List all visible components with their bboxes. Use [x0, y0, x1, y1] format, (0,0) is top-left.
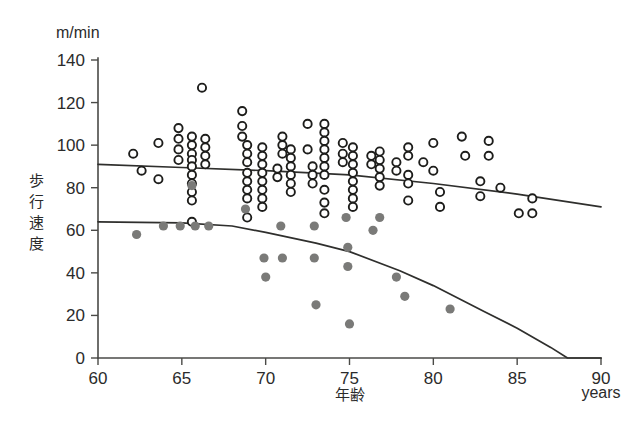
data-point-open: [461, 152, 469, 160]
series-open-circles: [129, 84, 536, 226]
data-point-filled: [446, 304, 455, 313]
data-point-open: [339, 158, 347, 166]
data-point-open: [320, 154, 328, 162]
y-axis-title-char: 歩: [29, 172, 44, 190]
data-point-open: [174, 135, 182, 143]
data-point-open: [528, 194, 536, 202]
x-axis-title: 年齢: [335, 386, 365, 404]
data-point-open: [188, 133, 196, 141]
data-point-open: [258, 186, 266, 194]
data-point-open: [201, 143, 209, 151]
data-point-filled: [159, 221, 168, 230]
data-point-open: [429, 167, 437, 175]
data-point-open: [515, 209, 523, 217]
data-point-open: [258, 169, 266, 177]
data-point-open: [320, 171, 328, 179]
data-point-open: [404, 171, 412, 179]
data-point-open: [258, 160, 266, 168]
data-point-open: [258, 194, 266, 202]
data-point-open: [320, 186, 328, 194]
data-point-open: [376, 182, 384, 190]
data-point-open: [349, 152, 357, 160]
data-point-filled: [187, 181, 196, 190]
data-point-open: [376, 165, 384, 173]
data-point-filled: [278, 253, 287, 262]
data-point-open: [476, 177, 484, 185]
data-point-filled: [241, 204, 250, 213]
data-point-open: [309, 162, 317, 170]
y-axis-title-char: 速: [29, 214, 44, 232]
data-point-open: [258, 152, 266, 160]
data-point-open: [485, 137, 493, 145]
data-point-open: [138, 167, 146, 175]
data-point-filled: [392, 273, 401, 282]
data-point-open: [436, 203, 444, 211]
data-point-open: [188, 196, 196, 204]
data-point-open: [496, 184, 504, 192]
x-tick-label: 85: [508, 369, 527, 388]
data-point-open: [258, 177, 266, 185]
x-axis-ticks: 60657075808590: [89, 358, 611, 388]
data-point-open: [174, 156, 182, 164]
data-point-open: [320, 128, 328, 136]
data-point-open: [320, 120, 328, 128]
data-point-open: [243, 141, 251, 149]
data-point-open: [392, 158, 400, 166]
data-point-open: [320, 209, 328, 217]
x-tick-label: 70: [256, 369, 275, 388]
data-point-open: [243, 186, 251, 194]
data-point-open: [278, 141, 286, 149]
data-point-open: [273, 165, 281, 173]
data-point-open: [349, 143, 357, 151]
data-point-open: [376, 147, 384, 155]
y-axis-title-char: 行: [29, 193, 44, 211]
data-point-open: [392, 167, 400, 175]
lower-trend: [98, 222, 601, 358]
data-point-open: [429, 139, 437, 147]
data-point-open: [188, 171, 196, 179]
data-point-open: [309, 171, 317, 179]
data-point-open: [278, 150, 286, 158]
data-point-open: [278, 133, 286, 141]
data-point-open: [404, 152, 412, 160]
data-point-filled: [259, 253, 268, 262]
data-point-open: [238, 107, 246, 115]
x-tick-label: 80: [424, 369, 443, 388]
data-point-filled: [176, 221, 185, 230]
data-point-filled: [400, 292, 409, 301]
y-tick-label: 20: [66, 306, 85, 325]
x-tick-label: 60: [89, 369, 108, 388]
data-point-filled: [342, 213, 351, 222]
data-point-filled: [310, 253, 319, 262]
data-point-open: [243, 213, 251, 221]
data-point-open: [154, 139, 162, 147]
y-axis-title-char: 度: [29, 235, 44, 253]
y-axis-unit-label: m/min: [56, 24, 100, 41]
data-point-open: [349, 160, 357, 168]
data-point-open: [129, 150, 137, 158]
data-point-filled: [204, 221, 213, 230]
data-point-open: [287, 162, 295, 170]
data-point-filled: [261, 273, 270, 282]
data-point-open: [436, 188, 444, 196]
data-point-open: [404, 179, 412, 187]
data-point-open: [349, 177, 357, 185]
data-point-open: [339, 150, 347, 158]
y-tick-label: 40: [66, 264, 85, 283]
data-point-open: [287, 154, 295, 162]
data-point-open: [258, 203, 266, 211]
data-point-open: [528, 209, 536, 217]
y-tick-label: 100: [57, 136, 85, 155]
x-axis-unit-label: years: [581, 384, 620, 401]
data-point-open: [304, 145, 312, 153]
data-point-filled: [343, 262, 352, 271]
data-point-open: [243, 158, 251, 166]
data-point-filled: [191, 221, 200, 230]
y-tick-label: 80: [66, 179, 85, 198]
data-point-filled: [310, 221, 319, 230]
data-point-open: [154, 175, 162, 183]
data-point-open: [404, 196, 412, 204]
data-point-open: [287, 188, 295, 196]
data-point-open: [287, 179, 295, 187]
data-point-filled: [311, 300, 320, 309]
